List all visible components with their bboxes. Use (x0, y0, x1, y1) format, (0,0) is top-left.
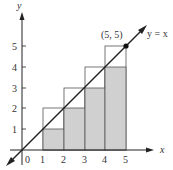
line-label: y = x (147, 28, 168, 39)
y-tick-label-3: 3 (12, 83, 17, 94)
point-5-5 (123, 43, 128, 48)
x-tick-label-3: 3 (82, 154, 87, 165)
y-tick-label-4: 4 (12, 62, 17, 73)
x-axis-label: x (159, 144, 165, 155)
y-tick-label-1: 1 (12, 124, 17, 135)
origin-label: 0 (25, 154, 30, 165)
y-ticks (22, 46, 26, 129)
riemann-sum-diagram: y x 0 1 2 3 4 5 1 2 3 4 5 (5, 5) y = x (0, 0, 173, 170)
y-tick-label-5: 5 (12, 41, 17, 52)
x-axis-arrow-icon (146, 148, 154, 153)
shaded-rectangles (43, 67, 126, 150)
point-label: (5, 5) (101, 29, 123, 41)
y-tick-label-2: 2 (12, 103, 17, 114)
x-tick-label-4: 4 (102, 154, 107, 165)
y-axis-label: y (16, 0, 22, 11)
x-tick-label-1: 1 (40, 154, 45, 165)
x-tick-label-5: 5 (123, 154, 128, 165)
x-tick-label-2: 2 (61, 154, 66, 165)
y-axis-arrow-icon (20, 12, 25, 20)
